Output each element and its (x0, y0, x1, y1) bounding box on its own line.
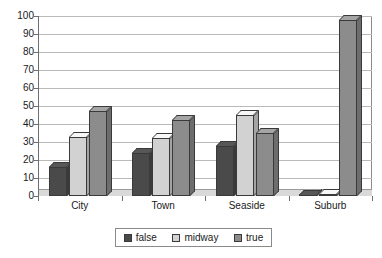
bar-series-layer (0, 0, 382, 258)
bar-side-face (274, 128, 279, 196)
bar-front-face (319, 194, 337, 196)
bar-seaside-midway (236, 115, 254, 196)
bar-front-face (236, 115, 254, 196)
bar-side-face (357, 15, 362, 196)
bar-city-midway (69, 137, 87, 196)
x-tick-mark-3 (372, 196, 373, 201)
bar-side-face (107, 106, 112, 196)
bar-seaside-true (256, 133, 274, 196)
bar-front-face (216, 146, 234, 196)
bar-chart: 0102030405060708090100 CityTownSeasideSu… (0, 0, 382, 258)
legend-label-false: false (136, 233, 157, 243)
bar-city-true (89, 111, 107, 196)
bar-suburb-midway (319, 194, 337, 196)
bar-city-false (49, 167, 67, 196)
bar-front-face (172, 120, 190, 196)
bar-front-face (89, 111, 107, 196)
x-category-label-suburb: Suburb (289, 200, 373, 212)
bar-side-face (190, 115, 195, 196)
bar-front-face (339, 20, 357, 196)
legend-swatch-midway-icon (172, 234, 180, 242)
legend-swatch-false-icon (124, 234, 132, 242)
bar-front-face (152, 138, 170, 196)
bar-town-true (172, 120, 190, 196)
legend-label-midway: midway (184, 233, 218, 243)
legend-item-false: false (124, 233, 157, 243)
bar-suburb-true (339, 20, 357, 196)
chart-legend: false midway true (115, 228, 272, 247)
bar-town-false (132, 153, 150, 196)
bar-town-midway (152, 138, 170, 196)
bar-front-face (69, 137, 87, 196)
legend-swatch-true-icon (234, 234, 242, 242)
x-category-label-city: City (38, 200, 122, 212)
bar-front-face (49, 167, 67, 196)
bar-suburb-false (299, 195, 317, 197)
x-category-label-town: Town (122, 200, 206, 212)
x-tick-mark-origin (38, 196, 39, 201)
bar-front-face (132, 153, 150, 196)
legend-item-true: true (234, 233, 263, 243)
legend-label-true: true (246, 233, 263, 243)
bar-seaside-false (216, 146, 234, 196)
legend-item-midway: midway (172, 233, 218, 243)
x-category-label-seaside: Seaside (205, 200, 289, 212)
bar-front-face (256, 133, 274, 196)
